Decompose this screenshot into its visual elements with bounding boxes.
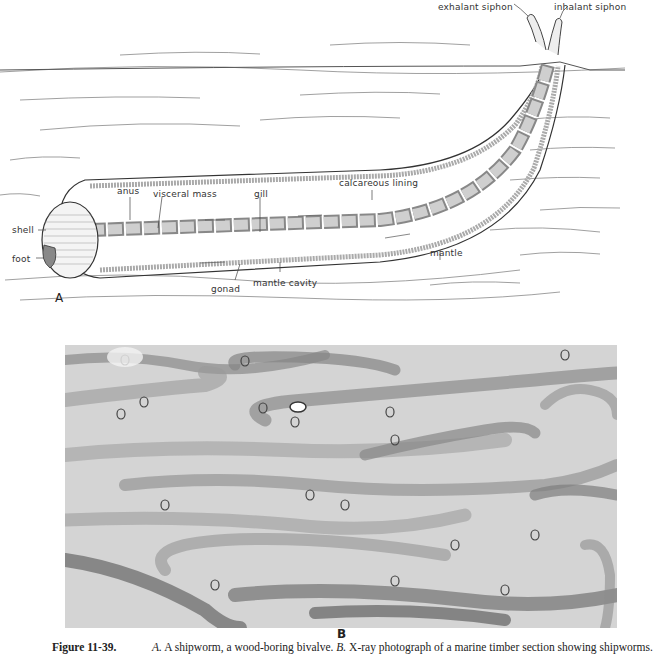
caption-a-text: A shipworm, a wood-boring bivalve. [162,641,336,653]
shipworm-illustration [0,0,625,310]
label-anus: anus [117,186,139,196]
caption-a-marker: A. [152,641,162,653]
figure-caption: Figure 11-39.A. A shipworm, a wood-borin… [52,641,625,653]
label-visceral-mass: visceral mass [153,189,217,199]
panel-a-letter: A [55,291,63,305]
figure-number: Figure 11-39. [52,641,152,653]
label-calcareous-lining: calcareous lining [339,178,418,188]
label-inhalant-siphon: inhalant siphon [554,2,626,12]
label-gonad: gonad [211,284,240,294]
label-exhalant-siphon: exhalant siphon [438,2,513,12]
caption-b-text: X-ray photograph of a marine timber sect… [346,641,653,653]
xray-shipworm-tubes [65,345,617,628]
label-mantle-cavity: mantle cavity [253,278,317,288]
label-mantle: mantle [430,248,463,258]
xray-photograph [65,345,617,628]
label-shell: shell [12,225,34,235]
caption-b-marker: B. [336,641,346,653]
shipworm-diagram: exhalant siphon inhalant siphon anus vis… [0,0,625,310]
panel-b-letter: B [337,627,346,641]
label-foot: foot [12,254,31,264]
label-gill: gill [254,189,268,199]
